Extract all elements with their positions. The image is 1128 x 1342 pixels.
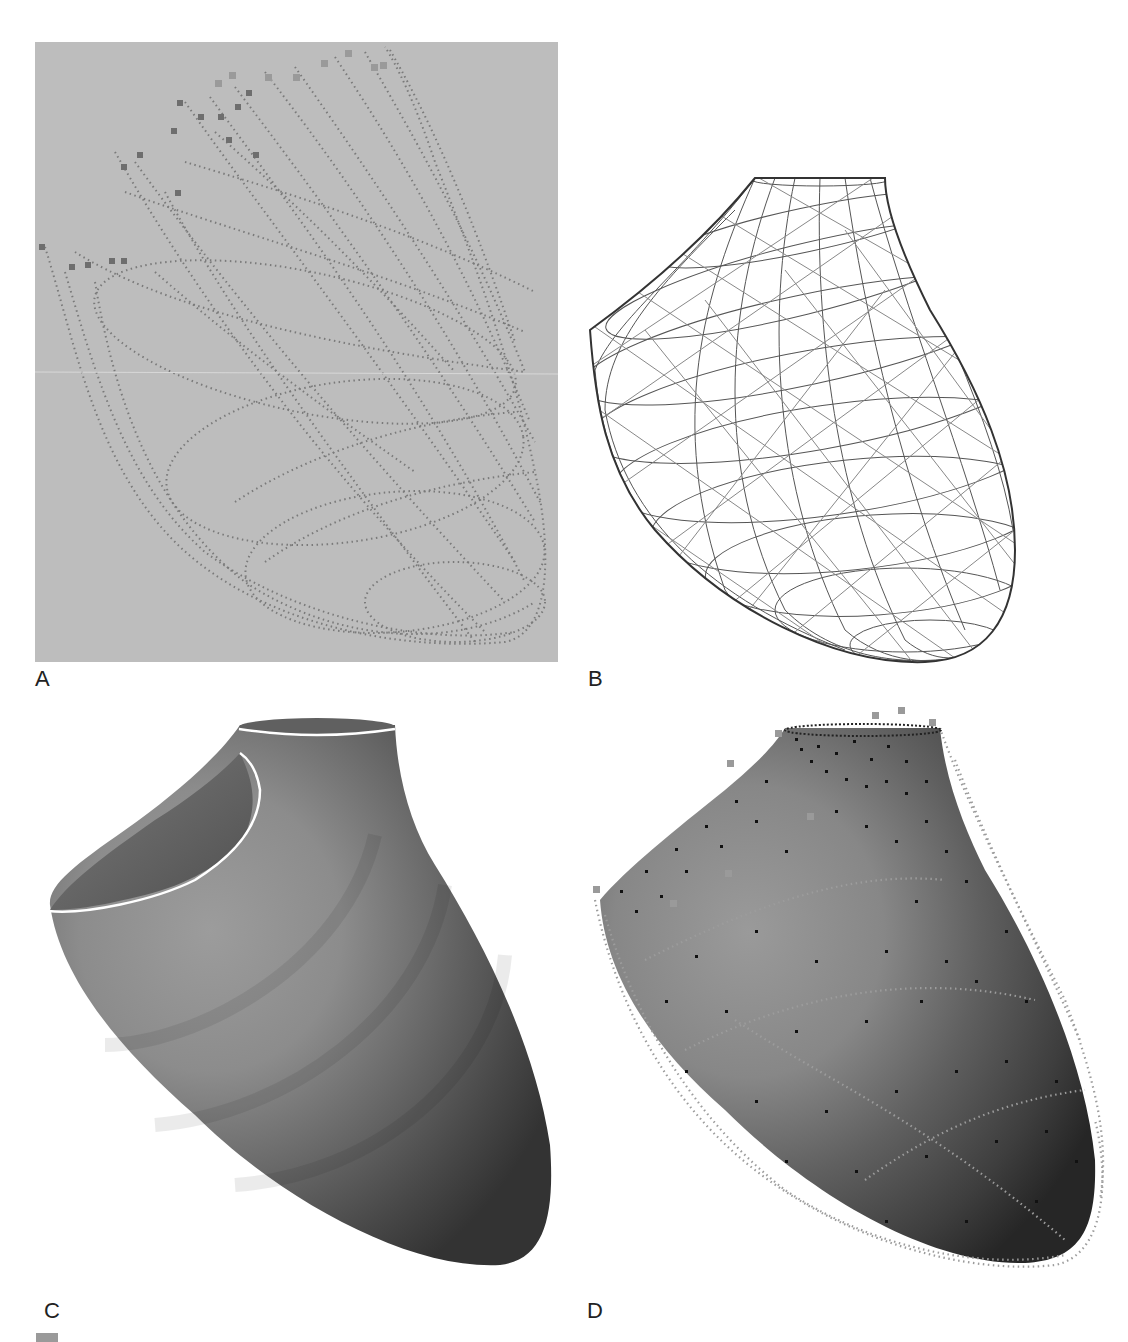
surface-with-points-image [585, 700, 1110, 1275]
panel-b-wireframe [585, 170, 1055, 665]
panel-label-d: D [587, 1300, 603, 1322]
panel-d-surface-with-points [585, 700, 1110, 1275]
shaded-surface-image [45, 715, 555, 1270]
panel-label-b: B [588, 668, 603, 690]
panel-a-point-cloud [35, 42, 558, 662]
panel-label-a: A [35, 668, 50, 690]
wireframe-mesh-image [585, 170, 1055, 665]
point-cloud-image [35, 42, 558, 662]
panel-c-shaded-surface [45, 715, 555, 1270]
panel-label-c: C [44, 1300, 60, 1322]
stray-mark [36, 1333, 58, 1342]
